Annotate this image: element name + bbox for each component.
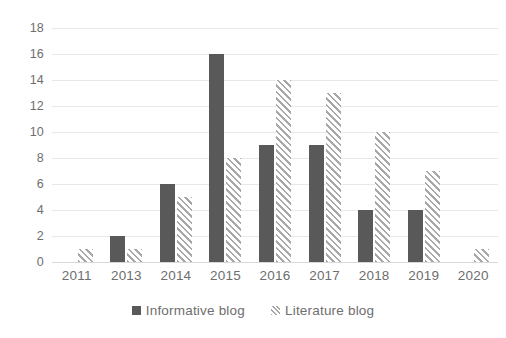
y-axis-tick-18: 18 [30,22,44,35]
bar-literature-2015 [226,158,241,262]
legend-label-literature: Literature blog [285,303,374,318]
bar-group-2018 [349,28,399,262]
legend-item-literature[interactable]: Literature blog [271,303,374,318]
x-axis-tick-2013: 2013 [102,268,152,283]
bar-literature-2011 [78,249,93,262]
bar-group-2011 [52,28,102,262]
bar-literature-2013 [127,249,142,262]
bar-informative-2014 [160,184,175,262]
y-axis-labels: 181614121086420 [0,28,44,262]
y-axis-tick-10: 10 [30,126,44,139]
bar-group-2017 [300,28,350,262]
y-axis-tick-0: 0 [37,256,44,269]
bar-group-2014 [151,28,201,262]
y-axis-tick-12: 12 [30,100,44,113]
bar-literature-2016 [276,80,291,262]
bar-group-2019 [399,28,449,262]
y-axis-tick-6: 6 [37,178,44,191]
bar-informative-2015 [209,54,224,262]
x-axis-tick-2017: 2017 [300,268,350,283]
bar-groups [52,28,498,262]
chart-legend: Informative blogLiterature blog [0,303,506,318]
y-axis-tick-4: 4 [37,204,44,217]
x-axis-tick-2019: 2019 [399,268,449,283]
bar-chart: 181614121086420 201120132014201520162017… [0,0,506,338]
x-axis-tick-2016: 2016 [250,268,300,283]
x-axis-labels: 201120132014201520162017201820192020 [52,268,498,283]
legend-item-informative[interactable]: Informative blog [132,303,245,318]
bar-informative-2019 [408,210,423,262]
y-axis-tick-2: 2 [37,230,44,243]
axis-baseline [52,262,498,263]
y-axis-tick-16: 16 [30,48,44,61]
x-axis-tick-2020: 2020 [449,268,499,283]
bar-literature-2020 [474,249,489,262]
legend-label-informative: Informative blog [146,303,245,318]
legend-swatch-literature-icon [271,306,280,315]
bar-group-2015 [201,28,251,262]
y-axis-tick-8: 8 [37,152,44,165]
x-axis-tick-2014: 2014 [151,268,201,283]
legend-swatch-informative-icon [132,306,141,315]
bar-group-2016 [250,28,300,262]
x-axis-tick-2018: 2018 [349,268,399,283]
bar-literature-2017 [326,93,341,262]
bar-informative-2017 [309,145,324,262]
y-axis-tick-14: 14 [30,74,44,87]
x-axis-tick-2011: 2011 [52,268,102,283]
bar-group-2013 [102,28,152,262]
bar-informative-2018 [358,210,373,262]
bar-literature-2014 [177,197,192,262]
bar-informative-2016 [259,145,274,262]
bar-group-2020 [449,28,499,262]
bar-literature-2019 [425,171,440,262]
bar-informative-2013 [110,236,125,262]
bar-literature-2018 [375,132,390,262]
x-axis-tick-2015: 2015 [201,268,251,283]
